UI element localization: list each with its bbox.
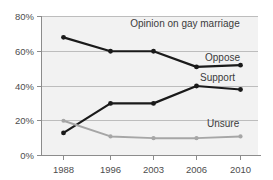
data-point-oppose-2006: [194, 64, 199, 69]
data-point-unsure-2010: [238, 134, 242, 138]
y-axis-label-0: 0%: [20, 150, 34, 161]
data-point-support-2003: [151, 101, 156, 106]
data-point-unsure-2006: [194, 136, 198, 140]
line-chart: 80% 60% 40% 20% 0% 1988 1996 2003 2006 2…: [0, 0, 273, 180]
data-point-unsure-2003: [151, 136, 155, 140]
data-point-oppose-2010: [238, 63, 243, 68]
y-axis-label-20: 20%: [15, 115, 35, 126]
data-point-support-1988: [61, 131, 66, 136]
x-axis-label-1988: 1988: [53, 164, 74, 175]
data-point-support-2006: [194, 84, 199, 89]
data-point-unsure-1996: [108, 134, 112, 138]
data-point-unsure-1988: [61, 119, 65, 123]
x-axis-label-1996: 1996: [100, 164, 121, 175]
x-axis-label-2006: 2006: [186, 164, 207, 175]
y-tick-marks: [37, 17, 41, 156]
data-point-oppose-1996: [108, 49, 113, 54]
data-point-oppose-2003: [151, 49, 156, 54]
data-point-support-2010: [238, 87, 243, 92]
y-axis-label-60: 60%: [15, 46, 35, 57]
y-axis-label-40: 40%: [15, 81, 35, 92]
series-label-oppose: Oppose: [205, 52, 240, 63]
series-label-unsure: Unsure: [207, 118, 240, 129]
data-point-oppose-1988: [61, 35, 66, 40]
x-tick-marks: [64, 156, 241, 161]
x-axis-label-2003: 2003: [143, 164, 164, 175]
chart-title: Opinion on gay marriage: [130, 18, 240, 29]
y-axis-label-80: 80%: [15, 11, 35, 22]
series-label-support: Support: [200, 72, 235, 83]
x-axis-label-2010: 2010: [230, 164, 251, 175]
chart-container: 80% 60% 40% 20% 0% 1988 1996 2003 2006 2…: [0, 0, 273, 180]
data-point-support-1996: [108, 101, 113, 106]
